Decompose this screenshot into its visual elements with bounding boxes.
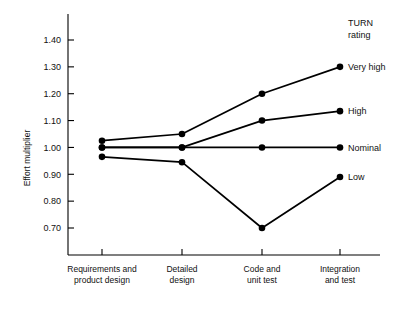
y-tick-label: 0.80 [43,196,61,206]
data-point-marker [337,64,344,71]
series-label-high: High [348,106,367,116]
x-tick-label: Detailed [166,264,197,274]
y-tick-label: 1.10 [43,116,61,126]
y-tick-label: 0.70 [43,223,61,233]
x-tick-label: Integration [320,264,360,274]
series-line-low [102,157,340,228]
data-point-marker [337,174,344,181]
legend-title-line: TURN [348,18,373,28]
y-tick-label: 0.90 [43,170,61,180]
x-tick-label: Code and [244,264,281,274]
y-tick-label: 1.00 [43,143,61,153]
x-tick-label: design [169,275,194,285]
x-tick-label: and test [325,275,356,285]
y-axis-title: Effort multiplier [22,130,32,187]
data-point-marker [259,90,266,97]
data-point-marker [337,108,344,115]
data-point-marker [99,144,106,151]
data-point-marker [337,144,344,151]
x-tick-label: product design [74,275,130,285]
data-point-marker [99,137,106,144]
series-label-very-high: Very high [348,62,386,72]
data-point-marker [259,225,266,232]
series-line-very-high [102,67,340,141]
series-label-low: Low [348,172,365,182]
y-tick-label: 1.40 [43,35,61,45]
chart-canvas: 0.700.800.901.001.101.201.301.40Effort m… [0,0,407,328]
y-tick-label: 1.20 [43,89,61,99]
x-tick-label: Requirements and [67,264,137,274]
series-line-high [102,111,340,147]
data-point-marker [179,131,186,138]
x-tick-label: unit test [247,275,277,285]
legend-title-line: rating [348,30,371,40]
data-point-marker [99,154,106,161]
data-point-marker [179,159,186,166]
y-tick-label: 1.30 [43,62,61,72]
series-label-nominal: Nominal [348,143,381,153]
data-point-marker [259,117,266,124]
effort-multiplier-chart: 0.700.800.901.001.101.201.301.40Effort m… [0,0,407,328]
data-point-marker [179,144,186,151]
data-point-marker [259,144,266,151]
